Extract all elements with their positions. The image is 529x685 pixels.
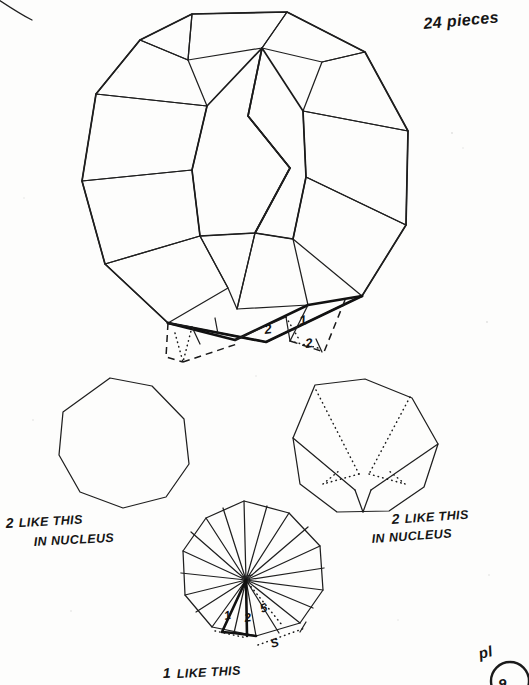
caption-bottom-center: 1 LIKE THIS — [162, 664, 241, 681]
fold-apex-left — [355, 490, 363, 512]
caption-lower-left-line2: IN NUCLEUS — [33, 531, 114, 549]
caption-lower-right-line1: LIKE THIS — [404, 508, 469, 526]
hidden-fold-bottom-right — [369, 474, 405, 484]
face-upper-right-b — [303, 52, 408, 131]
fold-crease-left — [293, 438, 355, 490]
detail-number-1: 1 — [298, 312, 307, 328]
hidden-fold-bottom-left — [323, 474, 359, 484]
face-octagon-right — [248, 48, 306, 239]
scanned-page: 2 1 2 24 pieces 2 LIKE THIS IN NUCLEUS — [0, 0, 529, 685]
figure-lower-left — [59, 378, 189, 508]
face-bottom-left — [200, 233, 255, 309]
figure-bottom-center: 1 2 5 S — [181, 501, 324, 651]
fan-label-5: 5 — [258, 600, 270, 616]
face-left-quad-lower — [82, 170, 200, 264]
fan-label-2: 2 — [242, 610, 252, 625]
corner-stray-mark — [0, 0, 32, 20]
highlighted-wedge-edge — [246, 580, 247, 636]
fan-label-s-bottom: S — [269, 635, 281, 651]
fold-apex-right — [363, 490, 371, 512]
figure-lower-right — [293, 379, 438, 512]
construction-dotted-left-2 — [175, 333, 183, 362]
wedge-tick-corner — [300, 622, 306, 632]
construction-dashed-left-2 — [166, 323, 183, 362]
folio-number: 9 — [498, 675, 507, 685]
folded-octagon-outline — [293, 379, 438, 512]
wedge-dotted-outer — [258, 628, 305, 645]
face-left-quad-bottom — [105, 236, 228, 323]
hidden-fold-left — [316, 390, 359, 474]
caption-lower-right-line2: IN NUCLEUS — [371, 526, 452, 546]
face-left-quad-upper — [82, 94, 207, 181]
caption-lower-left-line1: LIKE THIS — [18, 513, 83, 530]
caption-lower-right-count: 2 — [390, 510, 400, 527]
hidden-fold-right — [369, 397, 410, 474]
caption-bottom-count: 1 — [162, 665, 171, 681]
folio-mark: pl 9 — [476, 642, 529, 685]
face-right-quad-lower — [293, 177, 406, 296]
caption-lower-left: 2 LIKE THIS IN NUCLEUS — [4, 513, 114, 549]
main-polyhedron-figure: 2 1 2 — [82, 12, 408, 362]
face-bottom-right — [237, 233, 308, 309]
face-upper-right-a — [262, 12, 365, 62]
caption-bottom-line1: LIKE THIS — [176, 664, 241, 681]
face-upper-mid — [188, 12, 287, 60]
detail-left-face — [168, 323, 200, 344]
face-central-spine — [248, 116, 290, 233]
construction-dotted-left — [183, 327, 192, 362]
plain-octagon — [59, 378, 189, 508]
page-title: 24 pieces — [422, 8, 500, 32]
detail-number-2-right: 2 — [303, 335, 314, 351]
folio-label: pl — [476, 642, 495, 662]
folio-circle — [491, 662, 529, 685]
face-octagon-left — [192, 48, 290, 236]
polyhedron-outline — [82, 12, 408, 342]
caption-lower-right: 2 LIKE THIS IN NUCLEUS — [371, 508, 469, 546]
construction-dashed-left — [183, 344, 237, 362]
caption-lower-left-count: 2 — [4, 515, 14, 531]
face-right-quad-upper — [303, 111, 408, 225]
